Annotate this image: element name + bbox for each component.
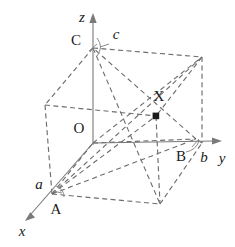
axis-y-arrowhead	[212, 137, 222, 144]
lattice-param-label-c: c	[113, 26, 120, 42]
unit-cell-diagram: z y x O A B C X a b c	[0, 0, 235, 247]
vertex-label-C: C	[71, 32, 81, 48]
edge-C-to-back-left	[45, 48, 93, 105]
axis-y-label: y	[217, 150, 226, 166]
cube-edges	[45, 48, 202, 204]
edge-top-right-back-to-X	[156, 57, 202, 116]
edge-C-to-top-right-back	[93, 48, 202, 57]
figure-container: z y x O A B C X a b c	[0, 0, 235, 247]
axis-x-label: x	[18, 223, 26, 239]
lattice-param-label-a: a	[35, 176, 43, 192]
point-X-group[interactable]	[153, 113, 160, 120]
axes-group	[25, 13, 222, 221]
edge-back-left-to-X	[45, 105, 156, 116]
axis-x-arrowhead	[25, 212, 35, 221]
labels-group: z y x O A B C X a b c	[18, 9, 226, 239]
edge-back-left-vertical	[45, 105, 52, 194]
vertex-label-X: X	[154, 88, 165, 104]
vertex-label-B: B	[176, 148, 186, 164]
point-X-marker[interactable]	[153, 113, 160, 120]
dimension-markers	[53, 38, 199, 197]
diagonal-B-to-C	[93, 48, 196, 139]
diagonal-A-to-X	[52, 116, 156, 194]
diagonal-O-to-X-extended	[93, 57, 202, 143]
axis-z-arrowhead	[89, 13, 96, 23]
axis-z-label: z	[78, 9, 85, 25]
lattice-param-label-b: b	[200, 149, 208, 165]
diagonal-C-to-front-bottom-right	[93, 48, 160, 204]
edge-X-vertical-front	[156, 116, 160, 204]
origin-label: O	[74, 120, 85, 136]
vertex-label-A: A	[51, 201, 62, 217]
marker-c-arc	[97, 38, 101, 56]
marker-c-leader	[100, 44, 109, 47]
edge-A-to-front-bottom-right	[52, 194, 160, 204]
